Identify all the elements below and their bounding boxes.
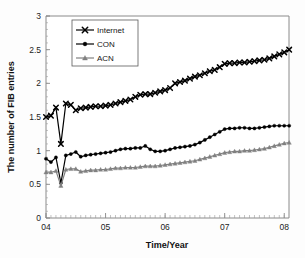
circle-marker bbox=[178, 146, 181, 149]
legend-label: ACN bbox=[97, 54, 114, 63]
chart-figure: 00.511.522.53 0405060708 Time/Year The n… bbox=[0, 0, 305, 258]
circle-marker bbox=[129, 147, 132, 150]
circle-marker bbox=[139, 146, 142, 149]
data-point-circle bbox=[74, 150, 77, 153]
data-point-circle bbox=[178, 146, 181, 149]
circle-marker bbox=[273, 124, 276, 127]
data-point-circle bbox=[263, 125, 266, 128]
data-point-circle bbox=[64, 154, 67, 157]
data-point-circle bbox=[208, 136, 211, 139]
circle-marker bbox=[283, 124, 286, 127]
data-point-circle bbox=[283, 124, 286, 127]
data-point-circle bbox=[44, 157, 47, 160]
x-tick-label: 06 bbox=[160, 222, 170, 232]
legend-label: Internet bbox=[97, 26, 125, 35]
y-axis-title: The number of FIB entries bbox=[6, 61, 16, 173]
data-point-circle bbox=[188, 144, 191, 147]
legend-label: CON bbox=[97, 40, 115, 49]
data-point-circle bbox=[129, 147, 132, 150]
circle-marker bbox=[104, 151, 107, 154]
data-point-circle bbox=[114, 149, 117, 152]
circle-marker bbox=[74, 150, 77, 153]
circle-marker bbox=[183, 145, 186, 148]
circle-marker bbox=[49, 160, 52, 163]
data-point-circle bbox=[193, 143, 196, 146]
x-tick-label: 07 bbox=[220, 222, 230, 232]
circle-marker bbox=[94, 152, 97, 155]
circle-marker bbox=[223, 128, 226, 131]
circle-marker bbox=[218, 130, 221, 133]
circle-marker bbox=[114, 149, 117, 152]
circle-marker bbox=[288, 124, 291, 127]
circle-marker bbox=[198, 141, 201, 144]
data-point-circle bbox=[183, 145, 186, 148]
x-tick-label: 05 bbox=[101, 222, 111, 232]
data-point-circle bbox=[99, 152, 102, 155]
circle-marker bbox=[89, 153, 92, 156]
circle-marker bbox=[253, 127, 256, 130]
data-point-circle bbox=[278, 124, 281, 127]
circle-marker bbox=[159, 150, 162, 153]
data-point-circle bbox=[109, 150, 112, 153]
circle-marker bbox=[119, 148, 122, 151]
data-point-circle bbox=[253, 127, 256, 130]
circle-marker bbox=[83, 42, 87, 46]
circle-marker bbox=[99, 152, 102, 155]
circle-marker bbox=[134, 146, 137, 149]
data-point-circle bbox=[139, 146, 142, 149]
circle-marker bbox=[188, 144, 191, 147]
circle-marker bbox=[54, 156, 57, 159]
y-tick-label: 1 bbox=[36, 146, 41, 156]
data-point-circle bbox=[144, 144, 147, 147]
circle-marker bbox=[208, 136, 211, 139]
circle-marker bbox=[193, 143, 196, 146]
y-tick-label: 3 bbox=[36, 11, 41, 21]
data-point-circle bbox=[159, 150, 162, 153]
circle-marker bbox=[149, 148, 152, 151]
circle-marker bbox=[44, 157, 47, 160]
circle-marker bbox=[64, 154, 67, 157]
data-point-circle bbox=[164, 149, 167, 152]
data-point-circle bbox=[84, 154, 87, 157]
data-point-circle bbox=[203, 138, 206, 141]
data-point-circle bbox=[94, 152, 97, 155]
data-point-circle bbox=[213, 133, 216, 136]
data-point-circle bbox=[238, 126, 241, 129]
data-point-circle bbox=[268, 125, 271, 128]
x-tick-label: 04 bbox=[41, 222, 51, 232]
data-point-circle bbox=[89, 153, 92, 156]
data-point-circle bbox=[149, 148, 152, 151]
chart-legend: InternetCONACN bbox=[72, 20, 138, 66]
circle-marker bbox=[79, 155, 82, 158]
circle-marker bbox=[278, 124, 281, 127]
circle-marker bbox=[154, 150, 157, 153]
data-point-circle bbox=[83, 42, 87, 46]
circle-marker bbox=[243, 126, 246, 129]
data-point-circle bbox=[54, 156, 57, 159]
fib-entries-line-chart: 00.511.522.53 0405060708 Time/Year The n… bbox=[0, 0, 305, 258]
x-tick-label: 08 bbox=[280, 222, 290, 232]
data-point-circle bbox=[124, 147, 127, 150]
data-point-circle bbox=[168, 148, 171, 151]
data-point-circle bbox=[273, 124, 276, 127]
data-point-circle bbox=[119, 148, 122, 151]
data-point-circle bbox=[233, 127, 236, 130]
circle-marker bbox=[213, 133, 216, 136]
data-point-circle bbox=[134, 146, 137, 149]
circle-marker bbox=[268, 125, 271, 128]
circle-marker bbox=[233, 127, 236, 130]
data-point-circle bbox=[49, 160, 52, 163]
data-point-circle bbox=[288, 124, 291, 127]
circle-marker bbox=[168, 148, 171, 151]
data-point-circle bbox=[104, 151, 107, 154]
data-point-circle bbox=[228, 127, 231, 130]
data-point-circle bbox=[79, 155, 82, 158]
data-point-circle bbox=[223, 128, 226, 131]
data-point-circle bbox=[198, 141, 201, 144]
circle-marker bbox=[109, 150, 112, 153]
circle-marker bbox=[228, 127, 231, 130]
data-point-circle bbox=[69, 152, 72, 155]
circle-marker bbox=[258, 126, 261, 129]
circle-marker bbox=[203, 138, 206, 141]
circle-marker bbox=[263, 125, 266, 128]
